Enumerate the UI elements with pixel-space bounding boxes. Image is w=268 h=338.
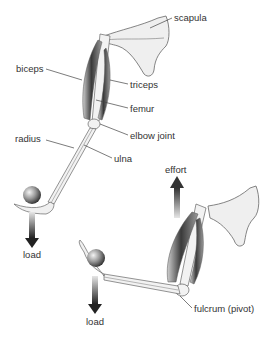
effort-arrow [170, 176, 184, 218]
scapula-shape-bottom [208, 186, 259, 246]
label-elbow-joint: elbow joint [130, 130, 175, 141]
flexed-arm [79, 176, 259, 314]
load-ball-bottom [87, 249, 105, 267]
load-arrow-bottom [88, 276, 102, 314]
label-ulna: ulna [114, 153, 132, 164]
arm-lever-diagram [0, 0, 268, 338]
label-load-top: load [23, 249, 41, 260]
label-load-bottom: load [86, 316, 104, 327]
label-fulcrum: fulcrum (pivot) [194, 303, 254, 314]
load-arrow-top [25, 212, 39, 248]
label-scapula: scapula [174, 12, 207, 23]
label-effort: effort [165, 164, 186, 175]
label-radius: radius [15, 133, 41, 144]
label-biceps: biceps [16, 63, 43, 74]
scapula-shape [104, 16, 169, 76]
load-ball-top [23, 186, 41, 204]
label-triceps: triceps [130, 79, 158, 90]
label-femur: femur [130, 103, 154, 114]
